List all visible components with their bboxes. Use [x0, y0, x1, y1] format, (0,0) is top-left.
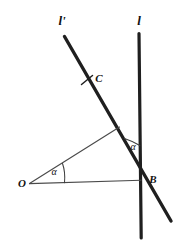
geometry-figure: l' l C B O α α [0, 0, 186, 243]
label-line-l: l [137, 13, 141, 28]
diagram-background [0, 0, 186, 243]
diagram-canvas: l' l C B O α α [0, 0, 186, 243]
label-point-c: C [95, 72, 103, 84]
label-point-o: O [18, 177, 26, 189]
label-point-b: B [148, 173, 156, 185]
label-angle-alpha-at-o: α [51, 166, 57, 177]
line-l [139, 34, 141, 239]
label-angle-alpha-at-b: α [130, 141, 136, 152]
label-line-l-prime: l' [58, 13, 66, 28]
